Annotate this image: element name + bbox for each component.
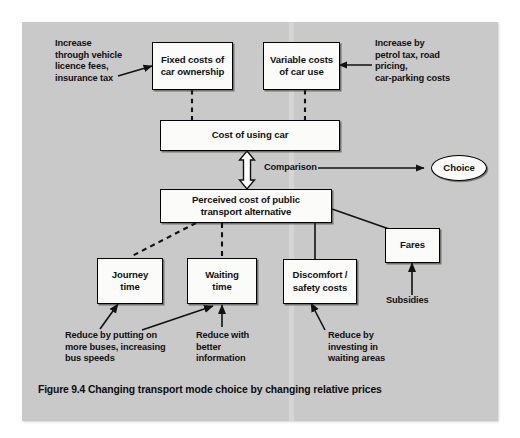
node-discomfort-safety-costs-label: Discomfort / safety costs	[293, 269, 348, 294]
node-waiting-time[interactable]: Waiting time	[187, 258, 257, 304]
node-choice-label: Choice	[443, 162, 474, 174]
node-discomfort-safety-costs[interactable]: Discomfort / safety costs	[283, 259, 357, 304]
node-waiting-time-label: Waiting time	[205, 269, 239, 294]
node-fares[interactable]: Fares	[385, 228, 440, 263]
figure-caption: Figure 9.4 Changing transport mode choic…	[38, 383, 458, 396]
note-reduce-buses: Reduce by putting on more buses, increas…	[65, 330, 185, 365]
note-reduce-waiting-areas: Reduce by investing in waiting areas	[328, 330, 418, 365]
node-fixed-costs-label: Fixed costs of car ownership	[161, 54, 225, 79]
figure-caption-text: Changing transport mode choice by changi…	[88, 384, 382, 395]
figure-page: Fixed costs of car ownership Variable co…	[0, 0, 520, 438]
node-fixed-costs[interactable]: Fixed costs of car ownership	[152, 42, 233, 90]
node-perceived-cost-label: Perceived cost of public transport alter…	[192, 194, 300, 219]
node-choice[interactable]: Choice	[431, 155, 487, 181]
note-increase-petrol: Increase by petrol tax, road pricing, ca…	[375, 38, 485, 84]
node-journey-time-label: Journey time	[112, 269, 149, 294]
node-fares-label: Fares	[400, 239, 425, 251]
note-subsidies: Subsidies	[386, 295, 446, 307]
node-variable-costs-label: Variable costs of car use	[270, 54, 333, 79]
note-reduce-information: Reduce with better information	[196, 330, 276, 365]
note-comparison: Comparison	[264, 162, 324, 174]
node-cost-of-using-car[interactable]: Cost of using car	[160, 120, 340, 151]
node-journey-time[interactable]: Journey time	[97, 258, 163, 304]
node-cost-of-using-car-label: Cost of using car	[212, 129, 289, 141]
node-perceived-cost[interactable]: Perceived cost of public transport alter…	[160, 189, 332, 223]
node-variable-costs[interactable]: Variable costs of car use	[263, 42, 340, 90]
figure-number: Figure 9.4	[38, 384, 85, 395]
note-increase-vehicle: Increase through vehicle licence fees, i…	[55, 38, 150, 84]
